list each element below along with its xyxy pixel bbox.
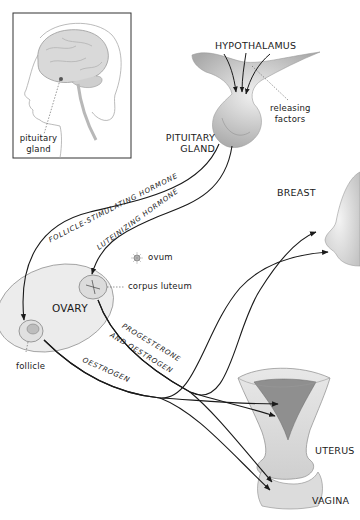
inset-pituitary-label: pituitary gland [16,133,61,154]
breast-illustration [325,172,360,266]
brain-icon [38,30,109,83]
hypothalamus-label: HYPOTHALAMUS [215,41,296,51]
uterus-illustration [238,368,330,509]
releasing-factors-label: releasing factors [270,103,310,124]
ovary-label: OVARY [52,303,88,314]
breast-label: BREAST [277,188,316,198]
follicle-label: follicle [16,362,45,371]
vagina-label: VAGINA [312,496,349,506]
ovum-icon [131,252,143,264]
diagram-canvas [0,0,360,520]
uterus-label: UTERUS [315,446,355,456]
corpus-luteum-label: corpus luteum [128,282,192,291]
ovum-label: ovum [148,253,173,262]
pituitary-gland-label: PITUITARY GLAND [163,132,215,155]
